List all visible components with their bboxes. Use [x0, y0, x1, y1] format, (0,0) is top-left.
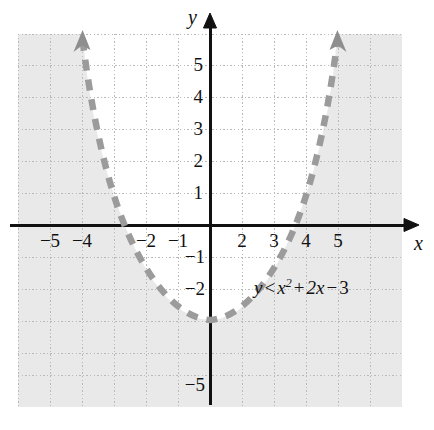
inequality-term-x: x — [277, 277, 285, 298]
y-tick-label-3: 3 — [194, 118, 204, 140]
x-tick-label-3: 3 — [269, 230, 279, 252]
y-axis-label: y — [188, 6, 197, 29]
y-axis-arrowhead — [204, 13, 217, 28]
y-tick-label-neg5: −5 — [185, 374, 205, 396]
x-axis-arrowhead — [404, 219, 419, 232]
x-tick-label-neg2: −2 — [136, 230, 156, 252]
inequality-exponent: 2 — [286, 276, 292, 290]
coordinate-plane — [0, 0, 434, 430]
inequality-annotation: y<x2+2x−3 — [254, 276, 349, 299]
y-tick-label-neg2: −2 — [185, 278, 205, 300]
inequality-minus: − — [325, 277, 340, 298]
x-axis-label: x — [414, 232, 423, 255]
y-tick-label-4: 4 — [194, 86, 204, 108]
x-tick-label-2: 2 — [237, 230, 247, 252]
x-tick-label-neg5: −5 — [40, 230, 60, 252]
y-tick-label-neg1: −1 — [185, 246, 205, 268]
inequality-plus: + — [292, 277, 307, 298]
x-tick-label-5: 5 — [333, 230, 343, 252]
y-tick-label-1: 1 — [194, 182, 204, 204]
inequality-relation: < — [262, 277, 277, 298]
x-tick-label-4: 4 — [301, 230, 311, 252]
x-tick-label-neg4: −4 — [72, 230, 92, 252]
inequality-term-2x: 2x — [307, 277, 325, 298]
inequality-graph-figure: y x −5 −4 −2 −1 2 3 4 5 5 4 3 2 1 −1 −2 … — [0, 0, 434, 430]
inequality-constant: 3 — [339, 277, 349, 298]
y-tick-label-2: 2 — [194, 150, 204, 172]
y-tick-label-5: 5 — [194, 54, 204, 76]
